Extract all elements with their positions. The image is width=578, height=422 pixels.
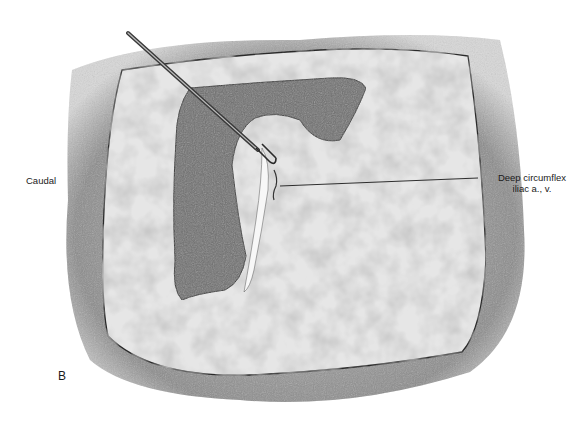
vessel-callout-line2: iliac a., v. (482, 183, 578, 194)
vessel-callout-label: Deep circumflex iliac a., v. (482, 172, 578, 194)
anatomical-illustration: Caudal Deep circumflex iliac a., v. B (0, 0, 578, 422)
orientation-label: Caudal (26, 175, 56, 186)
vessel-callout-line1: Deep circumflex (482, 172, 578, 183)
surgical-field-drawing (0, 0, 578, 422)
panel-letter: B (58, 371, 66, 382)
